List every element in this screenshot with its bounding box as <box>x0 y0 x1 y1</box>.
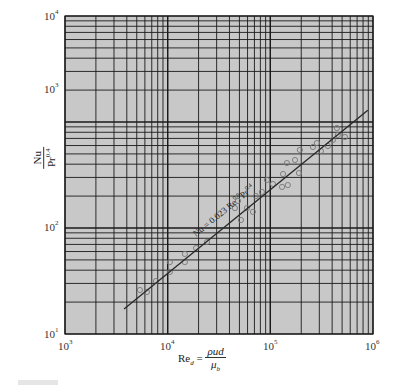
y-axis-label: Nu Pr0.4 <box>31 128 57 188</box>
x-tick-label: 103 <box>58 338 73 352</box>
figure-caption <box>18 380 58 385</box>
chart: Nu = 0.023 Re0.8Pr0.4 <box>0 0 396 392</box>
x-axis-label: Red = ρud μb <box>178 345 226 373</box>
x-tick-label: 104 <box>160 338 175 352</box>
y-tick-label: 102 <box>44 219 59 233</box>
y-tick-label: 101 <box>44 326 59 340</box>
x-tick-label: 106 <box>365 338 380 352</box>
plot-area <box>65 16 373 334</box>
y-tick-label: 104 <box>44 8 59 22</box>
y-tick-label: 103 <box>44 81 59 95</box>
x-tick-label: 105 <box>263 338 278 352</box>
